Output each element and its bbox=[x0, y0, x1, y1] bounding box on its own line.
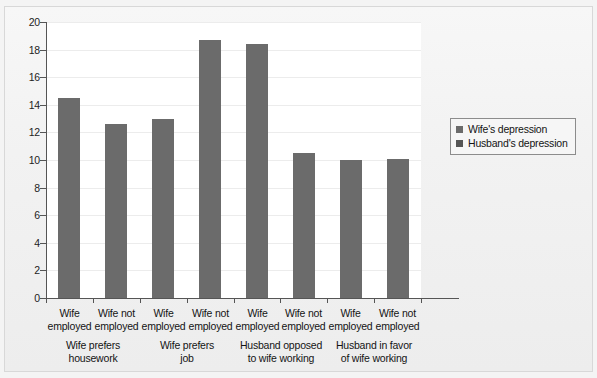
y-axis-tick bbox=[40, 160, 46, 161]
x-axis-category-label-line: employed bbox=[140, 320, 187, 333]
bar bbox=[246, 44, 268, 298]
gridline bbox=[46, 22, 421, 23]
x-axis-category-label: Wife notemployed bbox=[374, 307, 421, 332]
y-axis-tick bbox=[40, 22, 46, 23]
x-axis-group-label: Wife prefersjob bbox=[134, 339, 240, 364]
x-axis-category-label-line: Wife not bbox=[93, 307, 140, 320]
x-axis-category-label: Wifeemployed bbox=[140, 307, 187, 332]
bar bbox=[152, 119, 174, 298]
bar bbox=[293, 153, 315, 298]
x-axis-category-label-line: employed bbox=[280, 320, 327, 333]
gridline bbox=[46, 77, 421, 78]
x-axis-category-label-line: Wife not bbox=[374, 307, 421, 320]
y-axis-tick-label: 14 bbox=[6, 100, 40, 110]
x-axis-category-label: Wife notemployed bbox=[93, 307, 140, 332]
y-axis-tick bbox=[40, 215, 46, 216]
y-axis-tick-label: 10 bbox=[6, 155, 40, 165]
x-axis-category-label-line: Wife bbox=[234, 307, 281, 320]
x-axis-tick bbox=[187, 299, 188, 303]
y-axis-tick bbox=[40, 50, 46, 51]
x-axis-category-label: Wifeemployed bbox=[327, 307, 374, 332]
y-axis-tick bbox=[40, 188, 46, 189]
y-axis-tick-label: 20 bbox=[6, 17, 40, 27]
chart-figure: 02468101214161820 WifeemployedWife notem… bbox=[0, 0, 597, 378]
bar bbox=[340, 160, 362, 298]
x-axis-group-label: Husband opposedto wife working bbox=[228, 339, 334, 364]
x-axis-group-label-line: of wife working bbox=[321, 352, 427, 365]
y-axis-tick-label: 4 bbox=[6, 238, 40, 248]
x-axis-group-label-line: Wife prefers bbox=[40, 339, 146, 352]
x-axis-tick bbox=[374, 299, 375, 303]
y-axis-tick-label: 12 bbox=[6, 127, 40, 137]
x-axis-group-label: Husband in favorof wife working bbox=[321, 339, 427, 364]
x-axis-category-label: Wife notemployed bbox=[280, 307, 327, 332]
legend-swatch-icon bbox=[456, 140, 463, 147]
gridline bbox=[46, 270, 421, 271]
x-axis-category-label: Wifeemployed bbox=[234, 307, 281, 332]
gridline bbox=[46, 160, 421, 161]
x-axis-category-label-line: employed bbox=[46, 320, 93, 333]
bar bbox=[58, 98, 80, 298]
y-axis-tick-labels: 02468101214161820 bbox=[0, 0, 40, 378]
x-axis-group-label-line: Wife prefers bbox=[134, 339, 240, 352]
legend-item: Wife's depression bbox=[456, 122, 568, 136]
y-axis-tick-label: 0 bbox=[6, 293, 40, 303]
x-axis-category-label-line: employed bbox=[93, 320, 140, 333]
gridline bbox=[46, 215, 421, 216]
bar bbox=[387, 159, 409, 298]
x-axis-category-label-line: employed bbox=[187, 320, 234, 333]
gridline bbox=[46, 188, 421, 189]
y-axis-tick-label: 18 bbox=[6, 45, 40, 55]
x-axis-tick bbox=[46, 299, 47, 303]
x-axis-tick bbox=[234, 299, 235, 303]
y-axis-tick-label: 16 bbox=[6, 72, 40, 82]
x-axis-category-label-line: Wife bbox=[327, 307, 374, 320]
x-axis-category-label: Wife notemployed bbox=[187, 307, 234, 332]
y-axis-line bbox=[46, 22, 47, 299]
x-axis-group-label-line: Husband in favor bbox=[321, 339, 427, 352]
x-axis-category-label-line: employed bbox=[234, 320, 281, 333]
x-axis-group-label-line: to wife working bbox=[228, 352, 334, 365]
legend-item: Husband's depression bbox=[456, 136, 568, 150]
gridline bbox=[46, 132, 421, 133]
x-axis-category-label-line: Wife bbox=[46, 307, 93, 320]
x-axis-category-label: Wifeemployed bbox=[46, 307, 93, 332]
bar bbox=[105, 124, 127, 298]
y-axis-tick-label: 2 bbox=[6, 265, 40, 275]
x-axis-category-label-line: Wife not bbox=[280, 307, 327, 320]
x-axis-tick bbox=[93, 299, 94, 303]
gridline bbox=[46, 50, 421, 51]
y-axis-tick bbox=[40, 243, 46, 244]
x-axis-group-label-line: housework bbox=[40, 352, 146, 365]
bar bbox=[199, 40, 221, 298]
legend-swatch-icon bbox=[456, 126, 463, 133]
x-axis-category-label-line: Wife bbox=[140, 307, 187, 320]
x-axis-category-label-line: employed bbox=[327, 320, 374, 333]
y-axis-tick bbox=[40, 77, 46, 78]
x-axis-category-label-line: employed bbox=[374, 320, 421, 333]
x-axis-tick bbox=[327, 299, 328, 303]
legend-label: Wife's depression bbox=[468, 123, 547, 135]
x-axis-tick bbox=[421, 299, 422, 303]
y-axis-tick-label: 6 bbox=[6, 210, 40, 220]
y-axis-tick bbox=[40, 270, 46, 271]
y-axis-tick bbox=[40, 105, 46, 106]
legend-label: Husband's depression bbox=[468, 137, 568, 149]
gridline bbox=[46, 105, 421, 106]
x-axis-group-label: Wife prefershousework bbox=[40, 339, 146, 364]
gridline bbox=[46, 243, 421, 244]
x-axis-line bbox=[46, 298, 459, 299]
x-axis-category-label-line: Wife not bbox=[187, 307, 234, 320]
x-axis-tick bbox=[140, 299, 141, 303]
y-axis-tick bbox=[40, 132, 46, 133]
y-axis-tick-label: 8 bbox=[6, 183, 40, 193]
x-axis-group-label-line: Husband opposed bbox=[228, 339, 334, 352]
x-axis-tick bbox=[280, 299, 281, 303]
x-axis-group-label-line: job bbox=[134, 352, 240, 365]
legend: Wife's depression Husband's depression bbox=[450, 118, 576, 155]
